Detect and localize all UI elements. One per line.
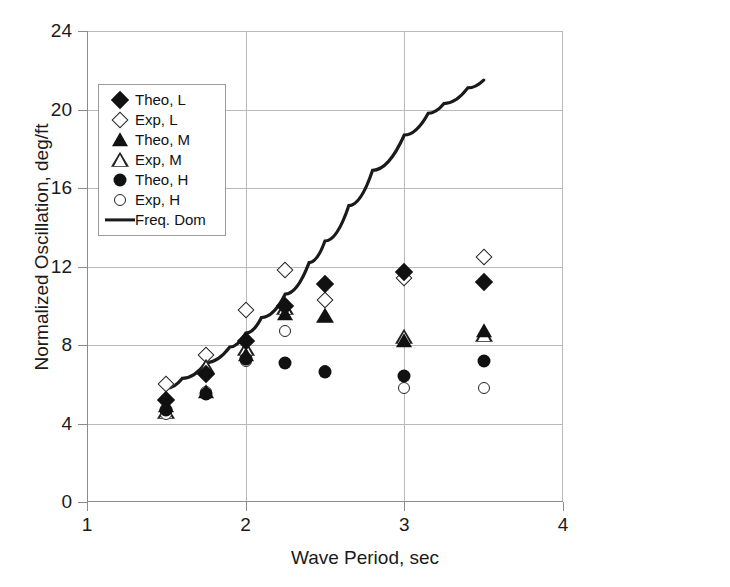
data-point-theo-h (398, 370, 411, 383)
x-tick-label: 1 (82, 514, 93, 536)
legend-item-exp-l: Exp, L (105, 110, 219, 130)
x-tick-mark (87, 502, 88, 511)
y-tick-label: 12 (51, 256, 72, 278)
y-tick-mark (78, 188, 87, 189)
x-axis-title: Wave Period, sec (0, 547, 730, 569)
data-point-theo-m (396, 333, 412, 347)
legend-label: Freq. Dom (135, 210, 206, 230)
legend-label: Exp, H (135, 190, 180, 210)
data-point-theo-m (277, 306, 293, 320)
legend-label: Exp, M (135, 150, 182, 170)
x-tick-label: 3 (399, 514, 410, 536)
legend-item-theo-l: Theo, L (105, 90, 219, 110)
data-point-theo-h (200, 388, 213, 401)
data-point-exp-h (398, 382, 410, 394)
legend-label: Theo, H (135, 170, 188, 190)
data-point-theo-h (160, 403, 173, 416)
y-tick-label: 8 (61, 334, 72, 356)
legend-label: Theo, M (135, 130, 190, 150)
data-point-theo-h (279, 356, 292, 369)
legend-marker-diamond-filled-icon (105, 90, 135, 110)
x-tick-label: 2 (240, 514, 251, 536)
legend-marker-circle-filled-icon (105, 170, 135, 190)
y-tick-mark (78, 424, 87, 425)
x-axis-ticks: 1234 (0, 505, 730, 539)
legend-marker-circle-open-icon (105, 190, 135, 210)
x-tick-mark (404, 502, 405, 511)
data-point-theo-h (319, 366, 332, 379)
data-point-theo-m (317, 308, 333, 322)
data-point-exp-h (279, 325, 291, 337)
y-axis-ticks: 04812162024 (0, 31, 72, 502)
x-tick-label: 4 (558, 514, 569, 536)
legend-item-exp-h: Exp, H (105, 190, 219, 210)
legend-item-exp-m: Exp, M (105, 150, 219, 170)
legend-marker-line-icon (105, 210, 135, 230)
legend-item-theo-m: Theo, M (105, 130, 219, 150)
x-tick-mark (246, 502, 247, 511)
legend-item-theo-h: Theo, H (105, 170, 219, 190)
data-point-theo-m (476, 324, 492, 338)
y-tick-mark (78, 110, 87, 111)
y-tick-mark (78, 31, 87, 32)
legend-marker-triangle-filled-icon (105, 130, 135, 150)
legend-label: Theo, L (135, 90, 186, 110)
y-tick-mark (78, 267, 87, 268)
chart-figure: Normalized Oscillation, deg/ft 048121620… (0, 0, 730, 587)
legend-marker-diamond-open-icon (105, 110, 135, 130)
chart-legend: Theo, LExp, LTheo, MExp, MTheo, HExp, HF… (98, 84, 226, 236)
y-tick-label: 16 (51, 177, 72, 199)
y-tick-label: 4 (61, 413, 72, 435)
data-point-theo-h (477, 354, 490, 367)
y-tick-label: 24 (51, 20, 72, 42)
x-tick-mark (563, 502, 564, 511)
legend-item-freq-dom: Freq. Dom (105, 210, 219, 230)
y-tick-mark (78, 345, 87, 346)
data-point-exp-h (478, 382, 490, 394)
y-tick-label: 20 (51, 99, 72, 121)
data-point-theo-h (239, 352, 252, 365)
y-tick-mark (78, 502, 87, 503)
legend-marker-triangle-open-icon (105, 150, 135, 170)
legend-label: Exp, L (135, 110, 178, 130)
